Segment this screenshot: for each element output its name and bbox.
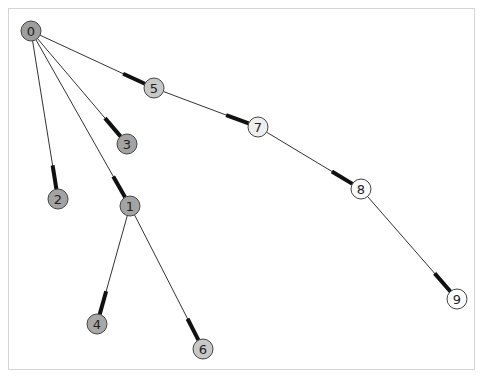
- node-label: 4: [93, 317, 101, 332]
- node-5: 5: [144, 78, 164, 98]
- node-label: 1: [126, 199, 134, 214]
- edge-arrowhead-icon: [332, 171, 353, 183]
- nodes-layer: 0123456789: [21, 21, 467, 359]
- node-6: 6: [193, 339, 213, 359]
- node-9: 9: [447, 289, 467, 309]
- node-label: 2: [54, 192, 62, 207]
- edge-arrowhead-icon: [188, 319, 199, 340]
- node-4: 4: [87, 314, 107, 334]
- node-label: 0: [27, 24, 35, 39]
- edge-arrowhead-icon: [105, 118, 121, 136]
- edge-arrowhead-icon: [226, 115, 248, 123]
- node-label: 9: [453, 292, 461, 307]
- node-label: 5: [150, 81, 158, 96]
- node-1: 1: [120, 196, 140, 216]
- node-label: 8: [357, 182, 365, 197]
- edge-0-1: [36, 40, 125, 198]
- graph-canvas: 0123456789: [0, 0, 484, 379]
- node-label: 3: [123, 137, 131, 152]
- edge-arrowhead-icon: [113, 176, 125, 197]
- node-7: 7: [248, 117, 268, 137]
- node-0: 0: [21, 21, 41, 41]
- node-label: 7: [254, 120, 262, 135]
- edge-arrowhead-icon: [53, 165, 57, 189]
- node-8: 8: [351, 179, 371, 199]
- edge-arrowhead-icon: [435, 273, 451, 291]
- node-2: 2: [48, 189, 68, 209]
- node-3: 3: [117, 134, 137, 154]
- node-label: 6: [199, 342, 207, 357]
- edges-layer: [33, 35, 451, 340]
- edge-arrowhead-icon: [100, 291, 106, 314]
- edge-arrowhead-icon: [123, 74, 145, 84]
